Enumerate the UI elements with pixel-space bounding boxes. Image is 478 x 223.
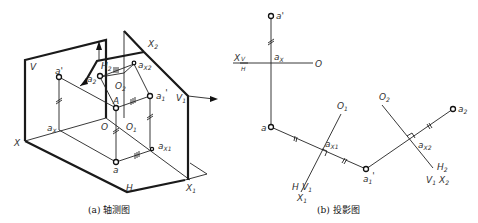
x-axis-line <box>25 118 106 141</box>
label-v1: V1 <box>176 93 186 104</box>
label-a1-prime: a1' <box>156 88 168 102</box>
projection-diagram: V a' X aX O O1 A a aX1 H X1 V1 a1' X2 H2… <box>0 0 478 223</box>
label-ax2: aX2 <box>418 140 432 151</box>
label-h: H <box>241 65 246 72</box>
caption-a: (a) 轴测图 <box>88 204 130 215</box>
line-a2-o2 <box>100 73 124 77</box>
x1-axis-line <box>106 118 190 180</box>
line-a-to-a1p <box>271 127 366 169</box>
point-a <box>269 125 274 130</box>
label-x: X <box>13 138 21 148</box>
label-a: a <box>113 165 119 175</box>
h-plane-corner <box>190 163 207 174</box>
label-h: H <box>126 183 133 193</box>
label-ax1: aX1 <box>158 141 171 152</box>
label-v1-right: V1 <box>426 175 436 186</box>
label-x: X <box>233 53 241 63</box>
label-o: O <box>315 59 322 69</box>
label-a-prime: a' <box>55 66 63 76</box>
label-h-lower: H <box>292 182 299 192</box>
point-a1-prime <box>364 167 369 172</box>
label-o1: O1 <box>337 101 348 112</box>
label-ax: aX <box>47 123 58 134</box>
label-o2: O2 <box>379 92 390 103</box>
label-a2: a2 <box>87 74 97 85</box>
figure-a-axonometric: V a' X aX O O1 A a aX1 H X1 V1 a1' X2 H2… <box>13 31 218 215</box>
label-x2: X2 <box>438 175 449 186</box>
figure-b-projection: a' X V H aX O a O1 aX1 H V1 X1 a1' O2 a2… <box>233 11 468 215</box>
point-A <box>114 106 119 111</box>
x1-axis-line <box>301 114 341 192</box>
label-v1: V1 <box>302 182 312 193</box>
point-a-prime <box>269 14 274 19</box>
label-h2: H2 <box>437 162 448 173</box>
label-v: V <box>241 55 246 62</box>
caption-b: (b) 投影图 <box>317 204 360 215</box>
label-ax2: aX2 <box>138 60 152 71</box>
v-plane <box>25 40 106 141</box>
label-a-prime: a' <box>276 11 284 21</box>
line-a-to-ax1 <box>116 150 152 162</box>
point-a2 <box>98 74 103 79</box>
point-a <box>114 160 119 165</box>
label-a2: a2 <box>458 104 468 115</box>
point-ax2 <box>132 61 136 65</box>
point-a1-prime <box>148 94 153 99</box>
label-x1: X1 <box>185 183 196 194</box>
label-x1: X1 <box>296 193 307 204</box>
label-A: A <box>112 96 119 106</box>
line-ax-to-a <box>59 130 116 162</box>
point-a2 <box>451 107 456 112</box>
point-ax1 <box>150 147 153 150</box>
label-ax1: aX1 <box>325 139 338 150</box>
label-a: a <box>261 123 267 133</box>
label-v: V <box>30 62 37 72</box>
x2-axis-line <box>382 105 433 168</box>
label-ax: aX <box>274 52 285 63</box>
arrow-head-icon <box>210 96 218 102</box>
label-a1-prime: a1' <box>363 171 375 185</box>
label-x2: X2 <box>147 39 158 50</box>
label-o: O <box>101 122 108 132</box>
label-h2: H2 <box>101 61 112 72</box>
line-o2-ax2 <box>124 64 134 73</box>
label-o1: O1 <box>126 122 137 133</box>
